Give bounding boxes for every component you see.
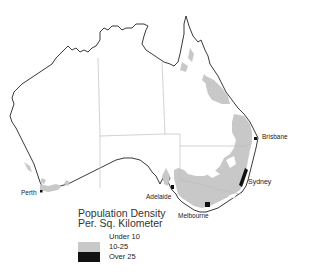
legend-label: Under 10 (109, 233, 140, 241)
legend-item-under-10: Under 10 (78, 232, 166, 242)
density-region-over-25-brisbane (254, 137, 257, 140)
city-label-adelaide: Adelaide (146, 194, 171, 201)
legend-swatch-gray (78, 242, 100, 252)
density-region-over-25-adelaide (171, 185, 174, 189)
city-label-melbourne: Melbourne (178, 213, 209, 220)
density-region-over-25-melbourne (205, 202, 210, 207)
legend-item-10-25: 10-25 (78, 242, 166, 252)
legend-label: 10-25 (109, 243, 128, 251)
legend: Population Density Per. Sq. Kilometer Un… (78, 208, 166, 262)
legend-swatch-white (78, 232, 100, 242)
city-label-perth: Perth (21, 190, 37, 197)
legend-title-line2: Per. Sq. Kilometer (78, 218, 166, 228)
density-region-over-25-perth (40, 190, 43, 193)
legend-swatch-black (78, 252, 100, 262)
city-label-sydney: Sydney (248, 178, 271, 185)
legend-item-over-25: Over 25 (78, 252, 166, 262)
city-label-brisbane: Brisbane (262, 134, 288, 141)
legend-label: Over 25 (109, 253, 136, 261)
